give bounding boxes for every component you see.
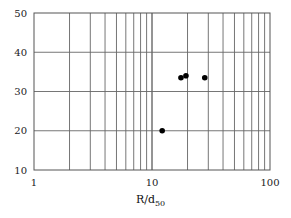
y-tick-label: 50 [14,8,27,19]
data-points [159,73,207,134]
x-tick-label: 100 [260,177,279,188]
x-axis-label: R/d50 [0,193,291,208]
y-tick-label: 10 [14,165,27,176]
x-tick-label: 1 [31,177,37,188]
x-axis-label-subscript: 50 [155,199,165,208]
y-tick-label: 40 [14,47,27,58]
scatter-chart: 1020304050 110100 [0,0,291,218]
y-tick-label: 20 [14,125,27,136]
data-point [159,128,165,134]
data-point [202,75,208,81]
x-tick-label: 10 [146,177,159,188]
x-axis-label-text: R/d [126,193,155,206]
y-axis-ticks: 1020304050 [14,8,27,176]
data-point [178,75,184,81]
data-point [183,73,189,79]
x-axis-ticks: 110100 [31,177,280,188]
grid-lines [34,13,270,170]
y-tick-label: 30 [14,86,27,97]
